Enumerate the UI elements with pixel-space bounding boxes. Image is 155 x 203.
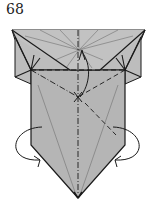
origami-diagram xyxy=(0,0,155,203)
